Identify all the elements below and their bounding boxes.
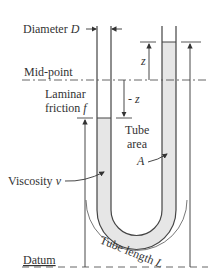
laminar-label: Laminar	[45, 87, 86, 101]
z-label: z	[140, 54, 146, 68]
minus-z-label: - z	[128, 92, 140, 106]
u-tube-diagram: Diameter D Mid-point Laminar friction f …	[0, 0, 213, 279]
area-symbol: A	[136, 154, 145, 168]
tube-label: Tube	[125, 123, 149, 137]
area-label: area	[127, 137, 148, 151]
diameter-label: Diameter D	[23, 22, 80, 36]
midpoint-label: Mid-point	[24, 65, 73, 79]
datum-label: Datum	[23, 253, 56, 267]
viscosity-label: Viscosity v	[8, 174, 62, 188]
friction-label: friction f	[45, 101, 88, 115]
